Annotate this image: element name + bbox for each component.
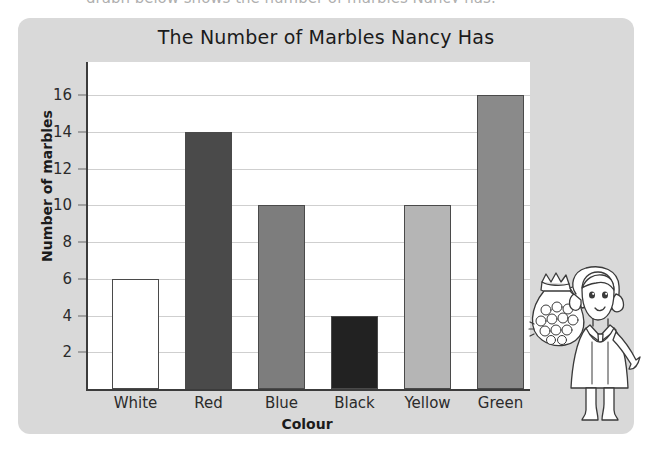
bar-slot: [404, 62, 451, 389]
bar-series: [88, 62, 528, 389]
y-tick-label: 10: [53, 196, 72, 214]
x-axis-ticks: WhiteRedBlueBlackYellowGreen: [88, 394, 528, 416]
x-tick-label-black: Black: [315, 394, 395, 412]
page-cutoff-text: graph below shows the number of marbles …: [0, 0, 652, 3]
y-tick-mark: [78, 205, 86, 206]
chart-card: The Number of Marbles Nancy Has Number o…: [18, 18, 634, 434]
bar-yellow: [404, 205, 451, 389]
y-tick-label: 6: [62, 270, 72, 288]
bar-slot: [258, 62, 305, 389]
y-tick-mark: [78, 315, 86, 316]
y-tick-mark: [78, 278, 86, 279]
y-tick-label: 14: [53, 123, 72, 141]
bar-black: [331, 316, 378, 389]
chart-title: The Number of Marbles Nancy Has: [18, 26, 634, 48]
y-tick-label: 8: [62, 233, 72, 251]
bar-blue: [258, 205, 305, 389]
bar-red: [185, 132, 232, 389]
x-axis-title: Colour: [86, 416, 528, 432]
x-tick-label-white: White: [96, 394, 176, 412]
bar-slot: [112, 62, 159, 389]
y-tick-mark: [78, 95, 86, 96]
bar-slot: [185, 62, 232, 389]
x-tick-label-red: Red: [169, 394, 249, 412]
y-tick-mark: [78, 352, 86, 353]
x-tick-label-yellow: Yellow: [388, 394, 468, 412]
bar-green: [477, 95, 524, 389]
y-tick-label: 12: [53, 160, 72, 178]
bar-slot: [331, 62, 378, 389]
bar-white: [112, 279, 159, 389]
y-axis-ticks: 246810121416: [18, 62, 86, 389]
x-tick-label-blue: Blue: [242, 394, 322, 412]
y-tick-label: 4: [62, 307, 72, 325]
girl-holding-bag-of-marbles-illustration: [524, 264, 642, 424]
bar-slot: [477, 62, 524, 389]
y-tick-mark: [78, 168, 86, 169]
y-tick-label: 16: [53, 86, 72, 104]
y-tick-label: 2: [62, 343, 72, 361]
y-tick-mark: [78, 131, 86, 132]
y-tick-mark: [78, 242, 86, 243]
